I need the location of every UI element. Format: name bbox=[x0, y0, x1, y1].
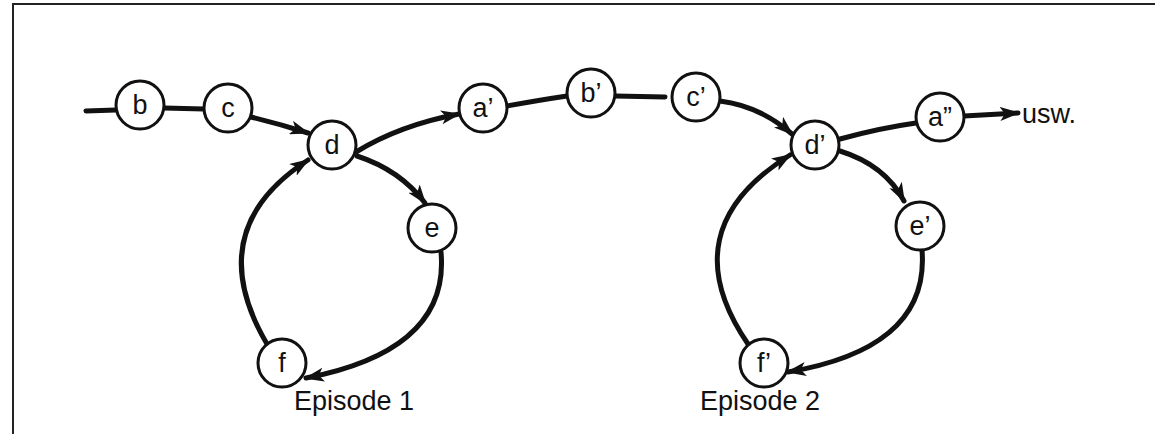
caption-episode-2: Episode 2 bbox=[700, 386, 820, 416]
edge-a2-usw bbox=[964, 113, 1018, 116]
node-d: d bbox=[308, 121, 356, 169]
continuation-label: usw. bbox=[1022, 99, 1076, 129]
edge-e-f bbox=[306, 252, 442, 378]
node-c1: c’ bbox=[672, 73, 720, 121]
edge-f1-d1 bbox=[717, 155, 790, 344]
edge-e1-f1 bbox=[788, 250, 922, 372]
node-b1: b’ bbox=[567, 69, 615, 117]
node-label: e’ bbox=[909, 211, 930, 241]
node-label: c’ bbox=[686, 82, 706, 112]
node-label: b bbox=[132, 90, 147, 120]
edge-a1-b1 bbox=[507, 96, 567, 106]
node-label: a’ bbox=[472, 93, 493, 123]
node-label: d bbox=[324, 130, 339, 160]
edges bbox=[86, 96, 1018, 378]
node-e: e bbox=[408, 204, 456, 252]
node-b: b bbox=[116, 81, 164, 129]
node-label: a” bbox=[928, 102, 952, 132]
node-f1: f’ bbox=[740, 339, 788, 387]
diagram-canvas: bcdefa’b’c’d’e’f’a” usw. Episode 1 Episo… bbox=[0, 0, 1155, 434]
edge-b1-c1 bbox=[615, 96, 665, 97]
edge-d1-e1 bbox=[840, 151, 904, 201]
node-label: b’ bbox=[580, 78, 601, 108]
caption-episode-1: Episode 1 bbox=[294, 386, 414, 416]
node-label: f bbox=[278, 348, 286, 378]
edge-f-d bbox=[241, 160, 308, 344]
node-e1: e’ bbox=[896, 202, 944, 250]
node-label: e bbox=[424, 213, 439, 243]
node-label: c bbox=[221, 93, 235, 123]
node-a2: a” bbox=[916, 93, 964, 141]
nodes: bcdefa’b’c’d’e’f’a” bbox=[116, 69, 964, 387]
node-label: f’ bbox=[757, 348, 771, 378]
diagram-svg: bcdefa’b’c’d’e’f’a” usw. Episode 1 Episo… bbox=[0, 0, 1155, 434]
frame bbox=[12, 4, 1155, 434]
edge-d-a1 bbox=[356, 114, 459, 152]
edge-c-d bbox=[251, 117, 308, 133]
edge-b-c bbox=[164, 108, 204, 109]
node-c: c bbox=[204, 84, 252, 132]
node-d1: d’ bbox=[791, 121, 839, 169]
node-f: f bbox=[258, 339, 306, 387]
node-label: d’ bbox=[804, 130, 825, 160]
edge-d-e bbox=[357, 156, 425, 203]
edge-c1-d1 bbox=[720, 101, 792, 134]
edge-d1-a2 bbox=[840, 123, 916, 139]
node-a1: a’ bbox=[459, 84, 507, 132]
edge-start-b bbox=[86, 110, 116, 111]
